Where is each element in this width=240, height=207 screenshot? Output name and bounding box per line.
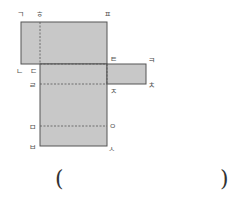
vertex-label-g: ㄱ: [17, 10, 24, 19]
vertex-label-n: ㄴ: [16, 67, 23, 76]
vertex-label-s: ㅅ: [108, 145, 115, 154]
vertex-label-t: ㅌ: [110, 55, 117, 64]
vertex-label-ch: ㅊ: [148, 81, 155, 90]
vertex-label-r: ㄹ: [29, 81, 36, 90]
answer-open-paren: (: [55, 168, 64, 190]
vertex-label-h: ㅎ: [36, 10, 43, 19]
vertex-label-k: ㅋ: [148, 56, 155, 65]
vertex-label-p: ㅍ: [104, 10, 111, 19]
vertex-label-j: ㅈ: [110, 87, 117, 96]
main-column: [40, 64, 107, 146]
answer-close-paren: ): [220, 168, 229, 190]
answer-blank[interactable]: [70, 170, 220, 192]
vertex-label-b: ㅂ: [29, 143, 36, 152]
right-tab: [107, 64, 146, 84]
top-flap: [21, 22, 107, 64]
vertex-label-o: ㅇ: [109, 122, 116, 131]
vertex-label-d: ㄷ: [30, 67, 37, 76]
vertex-label-m: ㅁ: [29, 123, 36, 132]
